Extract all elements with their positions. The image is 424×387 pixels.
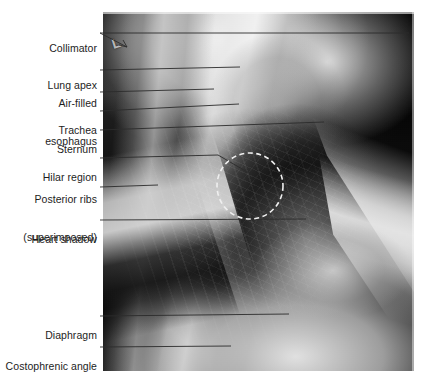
- annotated-xray-figure: L Collimator Lung apex Air-filled esopha…: [0, 0, 424, 387]
- label-costophrenic-angle: Costophrenic angle: [0, 335, 97, 387]
- label-heart-shadow: Heart shadow: [0, 208, 97, 271]
- collimator-edge-right: [412, 12, 414, 371]
- collimator-edge-top: [103, 12, 414, 14]
- chest-xray-image: L: [103, 12, 414, 371]
- xray-film-grain: [103, 12, 414, 371]
